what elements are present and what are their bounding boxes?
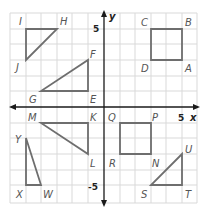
y-tick-5: 5 xyxy=(93,24,99,34)
y-tick-neg5: -5 xyxy=(88,182,98,192)
label-J: J xyxy=(14,62,19,73)
label-I: I xyxy=(19,16,22,27)
label-U: U xyxy=(185,144,193,155)
label-Q: Q xyxy=(108,112,116,123)
x-tick-5: 5 xyxy=(178,113,184,123)
triangle-YXW xyxy=(26,138,41,185)
label-A: A xyxy=(184,63,192,74)
label-P: P xyxy=(152,112,159,123)
label-G: G xyxy=(29,94,37,105)
x-axis-label: x xyxy=(189,112,197,123)
label-X: X xyxy=(15,189,24,200)
label-T: T xyxy=(185,189,192,200)
label-B: B xyxy=(185,17,192,28)
label-D: D xyxy=(141,63,149,74)
label-L: L xyxy=(90,158,96,169)
label-M: M xyxy=(28,112,37,123)
label-R: R xyxy=(109,158,116,169)
label-K: K xyxy=(90,112,98,123)
label-Y: Y xyxy=(15,134,22,145)
coordinate-plane: y x 5 -5 5 I H J F G E C B D A M K L Q P… xyxy=(0,0,205,212)
label-N: N xyxy=(152,158,160,169)
y-axis-label: y xyxy=(109,11,116,22)
label-H: H xyxy=(60,16,68,27)
label-E: E xyxy=(90,94,97,105)
label-W: W xyxy=(43,189,54,200)
label-S: S xyxy=(141,189,148,200)
label-F: F xyxy=(90,49,96,60)
label-C: C xyxy=(141,17,148,28)
